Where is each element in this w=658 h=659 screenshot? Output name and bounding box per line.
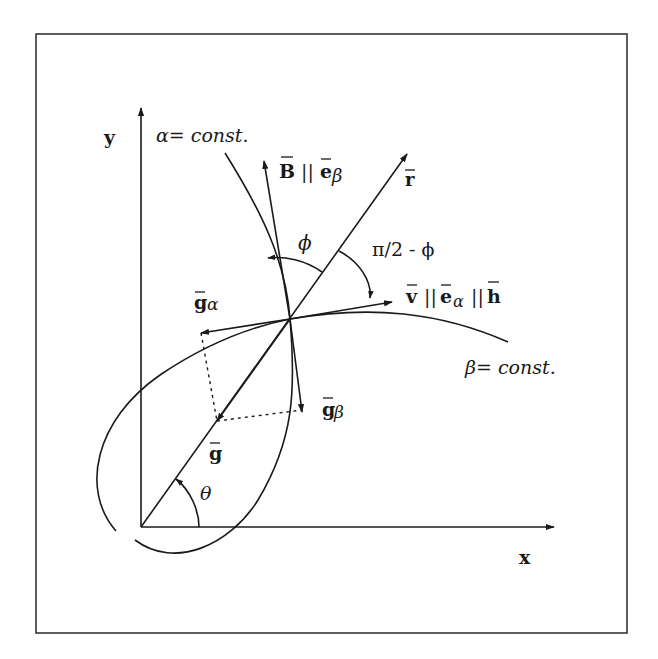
- phi-label: ϕ: [298, 231, 312, 255]
- alpha-const-curve: [135, 153, 293, 553]
- svg-text:v: v: [405, 285, 418, 307]
- svg-text:||: ||: [471, 285, 484, 308]
- svg-text:g: g: [209, 442, 222, 464]
- svg-text:r: r: [405, 169, 415, 190]
- x-axis-label: x: [519, 546, 531, 568]
- alpha-const-label: α= const.: [156, 124, 249, 146]
- beta-const-curve: [97, 312, 508, 531]
- figure-frame: [36, 34, 627, 633]
- B-vector: [264, 161, 290, 319]
- g-vector: [217, 319, 290, 421]
- svg-text:β: β: [331, 165, 342, 186]
- svg-text:||: ||: [424, 285, 437, 308]
- svg-text:α: α: [207, 294, 219, 314]
- g-beta-label: g β: [322, 398, 344, 422]
- svg-text:B: B: [279, 160, 295, 182]
- svg-text:β: β: [333, 402, 344, 422]
- v-parallel-e-alpha-parallel-h-label: v || e α || h: [405, 282, 501, 311]
- beta-const-label: β= const.: [464, 356, 556, 378]
- svg-text:h: h: [487, 285, 501, 307]
- svg-text:e: e: [440, 285, 452, 307]
- pi-half-minus-phi-arc: [339, 251, 370, 298]
- r-label: r: [405, 169, 415, 190]
- svg-text:||: ||: [301, 160, 314, 183]
- B-parallel-e-beta-label: B || e β: [279, 157, 342, 186]
- svg-text:e: e: [320, 160, 332, 182]
- theta-label: θ: [200, 482, 212, 504]
- v-vector: [290, 302, 392, 319]
- g-alpha-label: g α: [194, 291, 219, 314]
- theta-angle-arc: [176, 479, 199, 527]
- diagram-canvas: y x α= const. β= const. B || e β r ϕ π/2…: [0, 0, 658, 659]
- pi-half-minus-phi-label: π/2 - ϕ: [372, 238, 434, 260]
- g-label: g: [209, 442, 222, 464]
- y-axis-label: y: [103, 126, 116, 148]
- svg-text:g: g: [194, 291, 207, 313]
- phi-angle-arc: [268, 258, 322, 272]
- svg-text:α: α: [453, 292, 464, 311]
